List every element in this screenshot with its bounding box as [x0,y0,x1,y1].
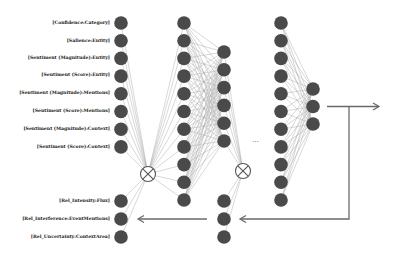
neuron-node [306,100,320,114]
ellipsis: ... [252,136,259,144]
neuron-node [274,69,288,83]
input-label: [Rel_Uncertainty:ContextArea] [31,234,110,240]
neuron-node [114,212,128,226]
neuron-node [217,194,231,208]
neuron-node [114,52,128,66]
neuron-node [274,140,288,154]
neuron-node [274,176,288,190]
multiply-operator-icon [141,167,156,182]
neuron-node [274,52,288,66]
neuron-node [114,105,128,119]
neuron-node [177,87,191,101]
neuron-node [177,34,191,48]
feedback-line [241,107,349,220]
neuron-node [274,16,288,30]
neuron-node [177,69,191,83]
neuron-node [217,81,231,95]
input-label: [Sentiment (Magnitude):Context] [23,126,110,132]
neuron-node [114,230,128,244]
input-label: [Sentiment (Score):Entity] [41,72,110,78]
neuron-node [177,176,191,190]
neuron-node [114,122,128,136]
neuron-node [114,194,128,208]
input-label: [Sentiment (Magnitude):Entity] [28,55,110,61]
neuron-node [217,134,231,148]
neuron-node [217,230,231,244]
neuron-node [177,52,191,66]
neuron-node [217,63,231,77]
flow-arrows [138,103,379,223]
neuron-node [177,16,191,30]
neuron-node [217,45,231,59]
neuron-node [217,116,231,130]
input-label: [Rel_Interference:EventMentions] [22,216,110,222]
neuron-node [177,105,191,119]
neuron-node [114,87,128,101]
neural-network-diagram: [Confidence:Category] [Salience:Entity] … [0,0,399,258]
input-label: [Confidence:Category] [52,20,110,26]
neuron-node [274,34,288,48]
input-label: [Sentiment (Score):Context] [37,144,110,150]
neuron-node [274,87,288,101]
neuron-node [274,122,288,136]
neuron-node [177,140,191,154]
input-label: [Rel_Intensity:Flux] [59,198,110,204]
neuron-node [306,82,320,96]
neuron-node [177,122,191,136]
neuron-node [274,158,288,172]
multiply-operator-icon [236,164,251,179]
input-label: [Salience:Entity] [67,38,110,44]
neuron-node [306,117,320,131]
neuron-node [114,69,128,83]
neuron-node [177,193,191,207]
neuron-node [217,212,231,226]
neuron-node [274,193,288,207]
input-label: [Sentiment (Magnitude):Mentions] [19,90,110,96]
neuron-node [114,140,128,154]
neuron-node [177,158,191,172]
neuron-node [114,34,128,48]
input-label: [Sentiment (Score):Mentions] [33,108,110,114]
neuron-node [217,99,231,113]
neuron-node [114,16,128,30]
neuron-node [274,105,288,119]
